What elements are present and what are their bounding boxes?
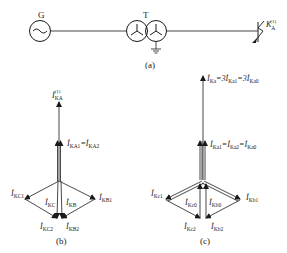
label-Kb2: İKb2 — [210, 222, 223, 232]
label-Kc1: İKc1 — [150, 189, 163, 199]
label-IKA: İKA(1) — [51, 89, 63, 101]
label-IKC2: İKC2 — [39, 222, 53, 232]
label-IKB: İKB — [65, 198, 77, 208]
fault-icon — [252, 21, 264, 43]
label-IKB2: İKB2 — [65, 222, 79, 232]
transformer-label: T — [143, 10, 149, 20]
caption-a: (a) — [145, 60, 155, 70]
phasor-diagram-b: İKA(1) İKA1=İKA2 İKC1 İKC İKB İKB1 İKC2 … — [10, 89, 112, 246]
generator-label: G — [38, 10, 45, 20]
vector-Kc1 — [166, 181, 202, 199]
label-IKC1: İKC1 — [10, 189, 24, 199]
fault-label: KA(1) — [265, 19, 276, 31]
label-Kc0: İKc0 — [184, 198, 197, 208]
sine-wave-icon — [33, 29, 47, 33]
vector-IKB — [61, 181, 62, 218]
circuit-diagram: G T KA(1) (a) — [30, 10, 277, 70]
vector-IKC — [57, 181, 58, 218]
label-Ka-mid: İKa1=İKa2=İKa0 — [209, 140, 257, 150]
diagram-canvas: G T KA(1) (a) — [0, 0, 287, 253]
caption-b: (b) — [56, 236, 67, 246]
label-Kc2: İKc2 — [183, 222, 196, 232]
label-IKC: İKC — [44, 198, 56, 208]
ground-icon — [151, 42, 161, 54]
label-IKB1: İKB1 — [98, 193, 112, 203]
vector-IKB1 — [59, 181, 95, 199]
vector-Kb1 — [204, 181, 240, 199]
label-Kb0: İKb0 — [208, 198, 221, 208]
vector-IKC1 — [25, 181, 59, 199]
transformer-icon — [127, 21, 167, 42]
label-Ka-top: İKa=3İKa1=3İKa0 — [206, 74, 259, 84]
caption-c: (c) — [200, 236, 210, 246]
phasor-diagram-c: İKa=3İKa1=3İKa0 İKa1=İKa2=İKa0 İKc1 İKc0… — [150, 74, 259, 246]
label-IKA1-eq-IKA2: İKA1=İKA2 — [66, 139, 99, 149]
label-Kb1: İKb1 — [245, 193, 258, 203]
vector-Kb1-double — [202, 183, 238, 201]
